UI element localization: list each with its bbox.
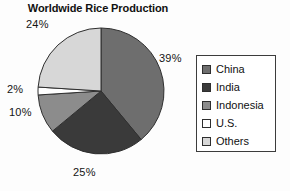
pie-slice-others [38,28,101,91]
pie-slices [38,28,164,154]
legend-item-us: U.S. [202,114,275,132]
pie-chart: 39% 25% 10% 2% 24% [0,0,196,191]
chart-legend: China India Indonesia U.S. Others [196,55,276,152]
legend-item-indonesia: Indonesia [202,96,275,114]
chart-page: Worldwide Rice Production 39% 25% 10% 2%… [0,0,290,191]
legend-swatch-others [202,137,211,146]
legend-swatch-us [202,119,211,128]
legend-label-china: China [216,64,245,75]
pie-value-label-china: 39% [159,52,182,64]
legend-item-others: Others [202,132,275,150]
pie-value-label-indonesia: 10% [9,106,32,118]
legend-label-us: U.S. [216,118,237,129]
legend-label-others: Others [216,136,249,147]
legend-label-indonesia: Indonesia [216,100,264,111]
pie-value-label-us: 2% [7,83,23,95]
legend-swatch-china [202,65,211,74]
legend-swatch-india [202,83,211,92]
legend-item-china: China [202,60,275,78]
pie-value-label-others: 24% [26,18,49,30]
legend-item-india: India [202,78,275,96]
pie-value-label-india: 25% [73,166,96,178]
legend-label-india: India [216,82,240,93]
legend-swatch-indonesia [202,101,211,110]
